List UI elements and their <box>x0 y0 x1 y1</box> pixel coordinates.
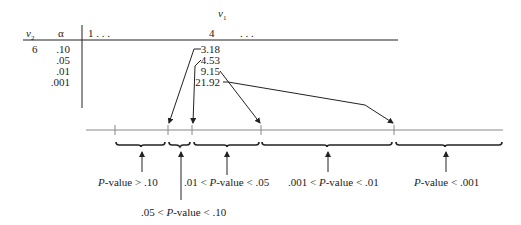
value-arrows <box>169 49 393 123</box>
interval-braces <box>116 142 502 147</box>
interval-label-2: .01 < P-value < .05 <box>184 177 269 188</box>
interval-label-3: .001 < P-value < .01 <box>288 177 379 188</box>
diagram-lines <box>0 0 521 225</box>
interval-label-1: .05 < P-value < .10 <box>141 207 226 218</box>
interval-label-0: P-value > .10 <box>98 177 158 188</box>
interval-label-4: P-value < .001 <box>414 177 479 188</box>
